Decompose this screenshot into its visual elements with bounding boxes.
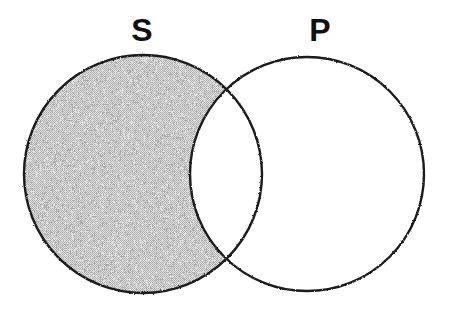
shaded-region-s-only — [0, 0, 452, 311]
circle-label-s: S — [114, 14, 170, 46]
diagram-canvas: S P — [0, 0, 452, 311]
circle-label-p: P — [292, 14, 348, 46]
venn-diagram-svg — [0, 0, 452, 311]
